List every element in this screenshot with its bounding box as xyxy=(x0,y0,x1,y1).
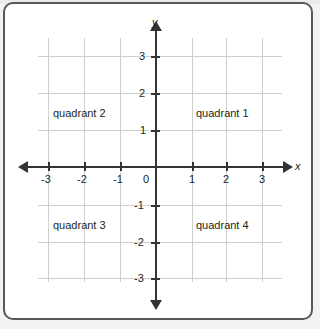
x-tick-label-neg1: -1 xyxy=(113,174,123,185)
origin-label: 0 xyxy=(143,174,149,185)
x-axis-label: x xyxy=(295,161,301,172)
y-tick-pos3 xyxy=(151,56,160,58)
gridline-horizontal-y-neg3 xyxy=(38,278,282,279)
x-tick-label-neg2: -2 xyxy=(77,174,87,185)
quadrant-label-2: quadrant 2 xyxy=(53,107,106,119)
gridline-vertical-x-neg3 xyxy=(48,38,49,282)
y-tick-label-neg3: -3 xyxy=(134,273,144,284)
x-tick-label-pos1: 1 xyxy=(189,174,195,185)
y-axis-line xyxy=(155,30,157,302)
gridline-vertical-x-neg1 xyxy=(120,38,121,282)
gridline-horizontal-y-pos2 xyxy=(38,93,282,94)
x-tick-label-pos3: 3 xyxy=(259,174,265,185)
gridline-vertical-x-pos3 xyxy=(262,38,263,282)
x-tick-pos3 xyxy=(262,162,264,171)
quadrant-label-1: quadrant 1 xyxy=(196,107,249,119)
y-tick-label-pos1: 1 xyxy=(140,125,146,136)
gridline-vertical-x-neg2 xyxy=(84,38,85,282)
coordinate-plane: -3 -2 -1 1 2 3 0 3 2 1 -1 -2 -3 y x quad… xyxy=(0,0,320,329)
y-tick-neg1 xyxy=(151,205,160,207)
y-tick-neg2 xyxy=(151,242,160,244)
y-axis-label: y xyxy=(152,17,158,28)
figure-stage: -3 -2 -1 1 2 3 0 3 2 1 -1 -2 -3 y x quad… xyxy=(0,0,320,329)
gridline-horizontal-y-neg1 xyxy=(38,205,282,206)
x-tick-label-neg3: -3 xyxy=(41,174,51,185)
x-axis-arrow-left-icon xyxy=(18,161,28,173)
x-tick-neg2 xyxy=(84,162,86,171)
x-tick-pos2 xyxy=(226,162,228,171)
y-tick-label-neg1: -1 xyxy=(134,200,144,211)
x-tick-neg3 xyxy=(48,162,50,171)
x-axis-arrow-right-icon xyxy=(283,161,293,173)
gridline-horizontal-y-pos3 xyxy=(38,56,282,57)
gridline-horizontal-y-neg2 xyxy=(38,242,282,243)
gridline-vertical-x-pos2 xyxy=(226,38,227,282)
y-tick-neg3 xyxy=(151,278,160,280)
gridline-horizontal-y-pos1 xyxy=(38,130,282,131)
x-tick-neg1 xyxy=(120,162,122,171)
x-tick-pos1 xyxy=(192,162,194,171)
y-tick-pos1 xyxy=(151,130,160,132)
x-tick-label-pos2: 2 xyxy=(223,174,229,185)
quadrant-label-4: quadrant 4 xyxy=(196,219,249,231)
y-tick-label-neg2: -2 xyxy=(134,237,144,248)
y-tick-label-pos2: 2 xyxy=(139,88,145,99)
gridline-vertical-x-pos1 xyxy=(192,38,193,282)
y-tick-label-pos3: 3 xyxy=(139,51,145,62)
y-tick-pos2 xyxy=(151,93,160,95)
quadrant-label-3: quadrant 3 xyxy=(53,219,106,231)
y-axis-arrow-down-icon xyxy=(150,300,162,310)
